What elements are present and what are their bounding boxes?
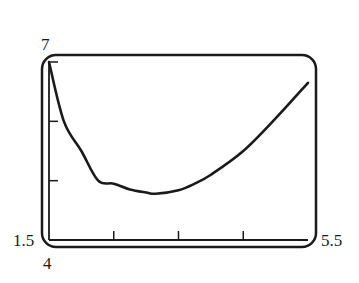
function-curve (49, 62, 308, 194)
screen-frame (42, 55, 316, 247)
graphing-calculator-screen (0, 0, 359, 283)
x-min-label: 1.5 (13, 232, 34, 249)
x-axis-ticks (114, 231, 244, 240)
x-max-label: 5.5 (321, 232, 342, 249)
y-min-label: 4 (43, 255, 52, 272)
y-max-label: 7 (41, 36, 50, 53)
